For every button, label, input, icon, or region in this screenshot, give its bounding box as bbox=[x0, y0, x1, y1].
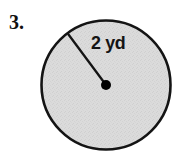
radius-measurement-label: 2 yd bbox=[91, 32, 125, 53]
circle-diagram bbox=[0, 0, 176, 161]
center-point-dot bbox=[101, 80, 111, 90]
figure-page: 3. 2 yd bbox=[0, 0, 176, 161]
